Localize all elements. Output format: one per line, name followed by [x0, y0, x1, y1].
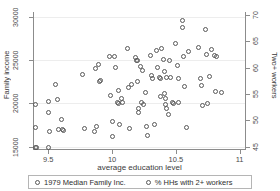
y-tick-right — [246, 120, 250, 121]
y-axis-right-title: Two+ workers — [270, 0, 279, 150]
data-point — [164, 106, 169, 111]
data-point — [219, 90, 224, 95]
x-tick — [240, 150, 241, 154]
data-point — [159, 46, 164, 51]
data-point — [140, 68, 145, 73]
gridline — [34, 147, 245, 148]
data-point — [112, 54, 117, 59]
y-tick-right — [246, 15, 250, 16]
y-tick-right — [246, 68, 250, 69]
data-point — [162, 69, 167, 74]
data-point — [125, 46, 130, 51]
data-point — [186, 49, 191, 54]
data-point — [144, 124, 149, 129]
y-tick-label-left: 30000 — [12, 1, 19, 33]
y-tick-label-right: 65 — [252, 33, 259, 49]
x-tick-label: 10.5 — [169, 155, 184, 164]
legend-label: % HHs with 2+ workers — [155, 178, 233, 187]
data-point — [207, 74, 212, 79]
data-point — [113, 65, 118, 70]
data-point — [143, 90, 148, 95]
data-point — [181, 54, 186, 59]
data-point — [203, 27, 208, 32]
legend-item-two-plus-workers[interactable]: % HHs with 2+ workers — [146, 178, 233, 187]
y-tick-label-right: 50 — [252, 112, 259, 128]
data-point — [59, 117, 64, 122]
data-point — [46, 99, 51, 104]
data-point — [47, 129, 52, 134]
data-point — [155, 65, 160, 70]
data-point — [213, 89, 218, 94]
data-point — [175, 63, 180, 68]
data-point — [55, 97, 60, 102]
data-point — [136, 110, 141, 115]
x-tick — [176, 150, 177, 154]
data-point — [173, 41, 178, 46]
y-axis-left-title: Family income — [2, 0, 11, 150]
y-tick-left — [29, 17, 33, 18]
data-point — [152, 122, 157, 127]
y-tick-label-left: 20000 — [12, 87, 19, 119]
data-point — [94, 124, 99, 129]
legend: 1979 Median Family Inc. % HHs with 2+ wo… — [28, 175, 252, 189]
legend-item-family-income[interactable]: 1979 Median Family Inc. — [35, 178, 126, 187]
data-point — [176, 76, 181, 81]
data-point — [120, 100, 125, 105]
y-axis-right-line — [245, 12, 246, 150]
data-point — [145, 133, 150, 138]
data-point — [196, 45, 201, 50]
data-point — [205, 101, 210, 106]
y-tick-label-right: 60 — [252, 60, 259, 76]
x-tick-label: 10 — [108, 155, 116, 164]
data-point — [129, 82, 134, 87]
scatter-chart-figure: Family income Two+ workers average educa… — [0, 0, 280, 191]
data-point — [98, 78, 103, 83]
data-point — [80, 72, 85, 77]
x-tick-label: 11 — [236, 155, 244, 164]
data-point — [93, 66, 98, 71]
data-point — [163, 96, 168, 101]
y-tick-label-left: 25000 — [12, 44, 19, 76]
x-tick — [48, 150, 49, 154]
data-point — [167, 58, 172, 63]
data-point — [182, 84, 187, 89]
y-tick-label-right: 70 — [252, 7, 259, 23]
y-tick-label-right: 45 — [252, 139, 259, 155]
x-axis-title: average education level — [33, 163, 246, 172]
data-point — [33, 102, 38, 107]
data-point — [214, 54, 219, 59]
data-point — [110, 119, 115, 124]
x-tick — [112, 150, 113, 154]
y-tick-label-right: 55 — [252, 86, 259, 102]
data-point — [61, 128, 66, 133]
legend-marker-icon — [35, 180, 40, 185]
data-point — [53, 82, 58, 87]
data-point — [117, 122, 122, 127]
y-tick-left — [29, 60, 33, 61]
plot-area — [33, 12, 246, 150]
data-point — [148, 53, 153, 58]
data-point — [199, 83, 204, 88]
legend-label: 1979 Median Family Inc. — [44, 178, 126, 187]
data-point — [184, 125, 189, 130]
data-point — [110, 134, 115, 139]
data-point — [198, 76, 203, 81]
data-point — [92, 129, 97, 134]
data-point — [204, 52, 209, 57]
legend-marker-icon — [146, 180, 151, 185]
data-point — [33, 125, 38, 130]
data-point — [166, 112, 171, 117]
data-point — [158, 76, 163, 81]
data-point — [82, 126, 87, 131]
data-point — [209, 47, 214, 52]
data-point — [150, 76, 155, 81]
data-point — [176, 100, 181, 105]
data-point — [96, 62, 101, 67]
y-tick-right — [246, 147, 250, 148]
y-tick-label-left: 15000 — [12, 131, 19, 163]
y-tick-right — [246, 41, 250, 42]
data-point — [116, 88, 121, 93]
data-point — [180, 25, 185, 30]
data-point — [46, 145, 51, 150]
data-point — [135, 58, 140, 63]
